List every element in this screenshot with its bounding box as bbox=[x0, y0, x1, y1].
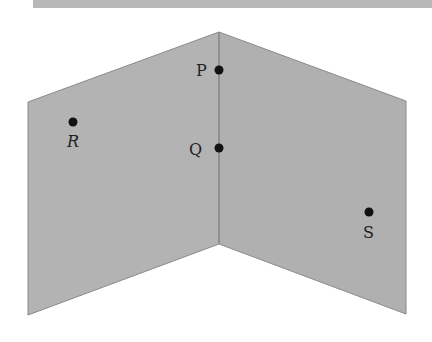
point-label-q: Q bbox=[189, 140, 202, 159]
point-label-r: R bbox=[66, 132, 79, 151]
right-plane bbox=[219, 32, 406, 314]
point-label-s: S bbox=[363, 223, 374, 242]
point-s: S bbox=[363, 208, 374, 243]
left-plane bbox=[28, 32, 219, 315]
planes-diagram: P Q R S bbox=[0, 0, 432, 342]
point-label-p: P bbox=[196, 61, 207, 80]
